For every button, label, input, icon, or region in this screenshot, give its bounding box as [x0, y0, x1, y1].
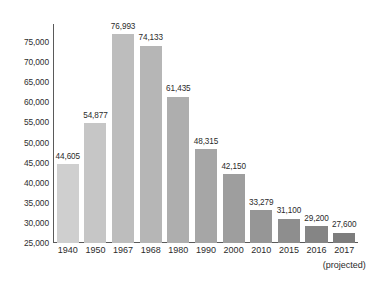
y-axis-tick-label: 60,000: [24, 98, 49, 106]
bar: [112, 34, 134, 243]
bar: [195, 149, 217, 243]
x-axis-tick-label: 2015: [275, 246, 303, 255]
x-axis-tick-label: 1940: [54, 246, 82, 255]
bar-value-label: 76,993: [111, 23, 135, 31]
bar-value-label: 74,133: [138, 34, 162, 42]
bar: [223, 174, 245, 243]
x-axis-tick-label: 1968: [137, 246, 165, 255]
bar-group: 33,279: [250, 24, 272, 243]
bar: [84, 123, 106, 243]
bar-value-label: 61,435: [166, 85, 190, 93]
y-axis-tick-label: 75,000: [24, 38, 49, 46]
bar: [305, 226, 327, 243]
x-axis-tick-label: 2017: [330, 246, 358, 255]
y-axis-tick-label: 25,000: [24, 239, 49, 247]
bar-group: 27,600: [333, 24, 355, 243]
x-axis-tick-label: 1980: [165, 246, 193, 255]
bar-value-label: 42,150: [221, 163, 245, 171]
x-axis-tick-label: 1967: [109, 246, 137, 255]
bar-group: 42,150: [223, 24, 245, 243]
bar-value-label: 27,600: [332, 221, 356, 229]
y-axis-tick-label: 50,000: [24, 139, 49, 147]
y-axis-tick-label: 40,000: [24, 179, 49, 187]
bar: [167, 97, 189, 243]
plot-area: 44,60554,87776,99374,13361,43548,31542,1…: [54, 24, 358, 243]
bar-value-label: 54,877: [83, 112, 107, 120]
bar-value-label: 31,100: [277, 207, 301, 215]
x-axis-tick-label: 2016: [303, 246, 331, 255]
bar-value-label: 44,605: [56, 153, 80, 161]
y-axis-tick-label: 35,000: [24, 199, 49, 207]
y-axis-tick-label: 65,000: [24, 78, 49, 86]
bar-group: 31,100: [278, 24, 300, 243]
bar-group: 61,435: [167, 24, 189, 243]
bar-group: 76,993: [112, 24, 134, 243]
y-axis-tick-label: 30,000: [24, 219, 49, 227]
y-axis: 75,00070,00065,00060,00055,00050,00045,0…: [0, 0, 49, 293]
bar: [250, 210, 272, 243]
y-axis-tick-label: 70,000: [24, 58, 49, 66]
bar-group: 29,200: [305, 24, 327, 243]
x-axis-tick-label: 2010: [247, 246, 275, 255]
bar: [57, 164, 79, 243]
y-axis-tick-label: 55,000: [24, 118, 49, 126]
bar-value-label: 48,315: [194, 138, 218, 146]
x-axis-tick-label: 1950: [82, 246, 110, 255]
bar-chart: 75,00070,00065,00060,00055,00050,00045,0…: [0, 0, 369, 293]
bar-value-label: 29,200: [304, 215, 328, 223]
bar-group: 54,877: [84, 24, 106, 243]
x-axis: 1940195019671968198019902000201020152016…: [54, 246, 358, 286]
bar: [278, 219, 300, 244]
bar-group: 74,133: [140, 24, 162, 243]
bar-group: 48,315: [195, 24, 217, 243]
projected-note: (projected): [317, 261, 369, 270]
bar-value-label: 33,279: [249, 199, 273, 207]
x-axis-tick-label: 1990: [192, 246, 220, 255]
x-axis-tick-label: 2000: [220, 246, 248, 255]
bar-group: 44,605: [57, 24, 79, 243]
bar: [333, 233, 355, 243]
bar: [140, 46, 162, 243]
y-axis-tick-label: 45,000: [24, 159, 49, 167]
